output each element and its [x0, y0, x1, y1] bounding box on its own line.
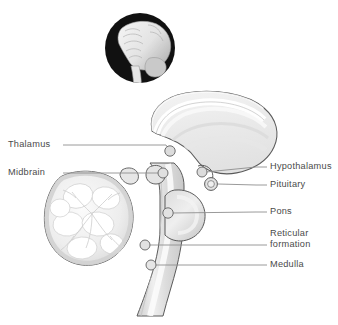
- label-reticular-formation: Reticular formation: [270, 228, 311, 250]
- label-pons-text: Pons: [270, 206, 292, 216]
- marker-medulla: [146, 260, 156, 270]
- flocculus-structure: [120, 168, 138, 184]
- label-reticular-formation-line2: formation: [270, 239, 311, 250]
- label-reticular-formation-line1: Reticular: [270, 228, 311, 239]
- label-hypothalamus: Hypothalamus: [270, 161, 332, 172]
- label-pituitary: Pituitary: [270, 179, 305, 190]
- brain-diagram: Thalamus Midbrain Hypothalamus Pituitary…: [0, 0, 338, 325]
- label-pituitary-text: Pituitary: [270, 179, 305, 189]
- marker-pons: [163, 208, 173, 218]
- marker-midbrain: [158, 168, 168, 178]
- label-thalamus-text: Thalamus: [8, 139, 50, 149]
- label-midbrain: Midbrain: [8, 167, 45, 178]
- marker-reticular-formation: [140, 240, 150, 250]
- marker-thalamus: [165, 146, 175, 156]
- label-thalamus: Thalamus: [8, 139, 50, 150]
- label-medulla-text: Medulla: [270, 259, 304, 269]
- cerebellum-structure: [44, 171, 133, 265]
- label-pons: Pons: [270, 206, 292, 217]
- label-hypothalamus-text: Hypothalamus: [270, 161, 332, 171]
- marker-hypothalamus: [197, 167, 207, 177]
- cerebrum-structure: [151, 91, 277, 173]
- label-medulla: Medulla: [270, 259, 304, 270]
- brain-lateral-inset: [105, 13, 175, 94]
- label-midbrain-text: Midbrain: [8, 167, 45, 177]
